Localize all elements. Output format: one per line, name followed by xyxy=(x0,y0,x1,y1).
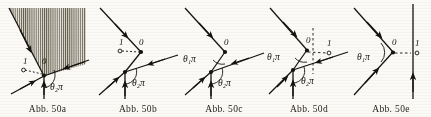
ray-upper-left-c xyxy=(185,8,225,52)
figure-e-drawing: θ₁π 0 1 xyxy=(351,0,431,100)
angle-label-theta2-d: θ₂π xyxy=(301,76,314,86)
caption-d: Abb. 50d xyxy=(267,104,351,114)
vertex-dot-a xyxy=(42,73,46,77)
figure-panel-d: θ₁π 0 1 θ₂π Abb. 50d xyxy=(267,0,351,117)
point-label-1-a: 1 xyxy=(23,56,28,66)
angle-label-theta1-e: θ₁π xyxy=(357,52,370,62)
dashed-horizontal-d xyxy=(308,51,331,55)
node-dot-d xyxy=(291,68,295,72)
figure-d-drawing: θ₁π 0 1 θ₂π xyxy=(267,0,351,100)
angle-label-theta2-b: θ₂π xyxy=(132,78,145,88)
ray-lower-left-b xyxy=(99,72,125,95)
vertex-label-0-a: 0 xyxy=(42,56,47,66)
figure-panel-c: θ₁π 0 θ₂π Abb. 50c xyxy=(181,0,267,117)
vertex-dot-c xyxy=(223,50,227,54)
ray-upper-left-d xyxy=(270,8,307,50)
point-label-1-e: 1 xyxy=(415,38,420,48)
ray-right-incoming-d xyxy=(293,52,348,70)
point-label-1-d: 1 xyxy=(327,38,332,48)
figure-c-drawing: θ₁π 0 θ₂π xyxy=(181,0,267,100)
angle-label-theta2-c: θ₂π xyxy=(218,78,231,88)
vertex-label-0-b: 0 xyxy=(139,37,144,47)
angle-label-theta1-d: θ₁π xyxy=(267,52,280,62)
point-label-1-b: 1 xyxy=(119,37,124,47)
vertex-label-0-d: 0 xyxy=(306,35,311,45)
figure-panel-a: 1 0 θ₂π Abb. 50a xyxy=(0,0,95,117)
vertex-dot-e xyxy=(391,50,395,54)
dashed-horizontal-b xyxy=(118,49,139,53)
caption-b: Abb. 50b xyxy=(95,104,181,114)
ray-lower-left-c xyxy=(185,72,211,95)
node-dot-b xyxy=(123,70,127,74)
figure-b-drawing: 1 0 θ₂π xyxy=(95,0,181,100)
node-dot-c xyxy=(209,70,213,74)
dashed-horizontal-e xyxy=(395,51,419,55)
caption-c: Abb. 50c xyxy=(181,104,267,114)
figure-plate: 1 0 θ₂π Abb. 50a xyxy=(0,0,431,117)
figure-panel-b: 1 0 θ₂π Abb. 50b xyxy=(95,0,181,117)
figure-a-drawing: 1 0 θ₂π xyxy=(0,0,95,100)
ray-lower-left-d xyxy=(269,70,293,94)
vertex-dot-d xyxy=(305,48,309,52)
ray-upper-left-e xyxy=(354,8,393,52)
ray-lower-left-a xyxy=(11,76,44,94)
angle-label-theta2-a: θ₂π xyxy=(50,82,63,92)
ray-vertex-to-node-d xyxy=(293,50,307,70)
vertex-label-0-c: 0 xyxy=(224,37,229,47)
angle-arc-left-e xyxy=(381,43,385,62)
dashed-horizontal-a xyxy=(22,68,42,74)
ray-right-incoming-b xyxy=(125,55,178,72)
angle-label-theta1-c: θ₁π xyxy=(183,54,196,64)
figure-panel-e: θ₁π 0 1 Abb. 50e xyxy=(351,0,431,117)
caption-a: Abb. 50a xyxy=(0,104,95,114)
caption-e: Abb. 50e xyxy=(351,104,431,114)
vertex-dot-b xyxy=(139,50,143,54)
vertex-label-0-e: 0 xyxy=(392,37,397,47)
ray-right-incoming-c xyxy=(211,53,264,72)
